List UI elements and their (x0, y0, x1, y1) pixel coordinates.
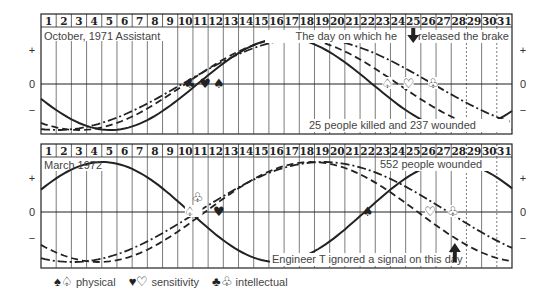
day-number: 25 (406, 145, 421, 157)
day-number: 17 (284, 145, 299, 157)
day-number: 29 (467, 145, 482, 157)
intellectual-critical-marker-icon: ♣ (184, 76, 196, 91)
y-tick-right: − (520, 232, 526, 244)
panel-2-title: March 1972 (44, 159, 102, 171)
day-number: 1 (45, 15, 52, 27)
panel-1-title: October, 1971 Assistant (44, 30, 160, 42)
day-number: 15 (254, 15, 269, 27)
day-number: 19 (315, 145, 330, 157)
day-number: 9 (166, 145, 173, 157)
day-number: 5 (106, 145, 113, 157)
intellectual-critical-marker-icon: ♧ (192, 190, 204, 205)
y-tick-left: 0 (29, 206, 35, 218)
day-number: 26 (421, 145, 436, 157)
day-number: 24 (391, 145, 406, 157)
sensitivity-critical-marker-icon: ♥ (199, 76, 211, 91)
day-number: 7 (136, 15, 143, 27)
day-number: 12 (208, 145, 223, 157)
legend-intellectual-label: intellectual (236, 276, 288, 288)
legend-physical-label: physical (76, 276, 116, 288)
day-number: 11 (193, 15, 208, 27)
day-number: 22 (360, 145, 375, 157)
day-number: 30 (482, 145, 497, 157)
biorhythm-chart: 1234567891011121314151617181920212223242… (0, 0, 553, 298)
physical-symbols-icon: ♠♤ (54, 275, 73, 288)
day-number: 6 (121, 145, 128, 157)
annotation-wounded-2: 552 people wounded (380, 158, 482, 170)
day-number: 24 (391, 15, 406, 27)
physical-critical-marker-icon: ♠ (362, 204, 374, 219)
day-number: 18 (300, 15, 315, 27)
day-number: 12 (208, 15, 223, 27)
legend-sensitivity-label: sensitivity (151, 276, 199, 288)
y-tick-right: + (520, 172, 526, 184)
annotation-brake-part2: released the brake (418, 30, 509, 42)
y-tick-left: − (29, 232, 35, 244)
day-number: 20 (330, 145, 345, 157)
day-number: 15 (254, 145, 269, 157)
intellectual-critical-marker-icon: ♧ (447, 204, 459, 219)
y-tick-right: − (520, 104, 526, 116)
day-number: 29 (467, 15, 482, 27)
sensitivity-symbols-icon: ♥♡ (129, 275, 149, 288)
day-number: 13 (224, 15, 239, 27)
day-number: 10 (178, 15, 193, 27)
day-number: 16 (269, 145, 284, 157)
day-number: 31 (497, 15, 512, 27)
annotation-signal: Engineer T ignored a signal on this day (272, 253, 463, 265)
sensitivity-critical-marker-icon: ♡ (424, 204, 436, 219)
y-tick-left: 0 (29, 78, 35, 90)
y-tick-right: 0 (520, 78, 526, 90)
sensitivity-critical-marker-icon: ♡ (403, 76, 415, 91)
day-number: 13 (224, 145, 239, 157)
day-number: 5 (106, 15, 113, 27)
day-number: 14 (239, 15, 254, 27)
day-number: 16 (269, 15, 284, 27)
day-number: 1 (45, 145, 52, 157)
day-number: 26 (421, 15, 436, 27)
day-number: 18 (300, 145, 315, 157)
day-number: 7 (136, 145, 143, 157)
intellectual-critical-marker-icon: ♧ (427, 76, 439, 91)
day-number: 11 (193, 145, 208, 157)
day-number: 21 (345, 145, 360, 157)
day-number: 9 (166, 15, 173, 27)
day-number: 2 (60, 15, 67, 27)
day-number: 3 (75, 15, 82, 27)
day-number: 28 (452, 15, 467, 27)
sensitivity-critical-marker-icon: ♥ (213, 204, 225, 219)
legend: ♠♤ physical ♥♡ sensitivity ♣♧ intellectu… (54, 275, 298, 288)
day-number: 6 (121, 15, 128, 27)
day-number: 4 (91, 145, 98, 157)
y-tick-right: 0 (520, 206, 526, 218)
day-number: 8 (151, 15, 158, 27)
day-number: 4 (91, 15, 98, 27)
day-number: 22 (360, 15, 375, 27)
intellectual-symbols-icon: ♣♧ (212, 275, 233, 288)
day-number: 2 (60, 145, 67, 157)
day-number: 23 (376, 15, 391, 27)
physical-critical-marker-icon: ♤ (382, 76, 394, 91)
y-tick-left: + (29, 44, 35, 56)
day-number: 23 (376, 145, 391, 157)
day-number: 19 (315, 15, 330, 27)
day-number: 20 (330, 15, 345, 27)
day-number: 3 (75, 145, 82, 157)
annotation-casualties-1: 25 people killed and 237 wounded (309, 119, 476, 131)
y-tick-right: + (520, 44, 526, 56)
annotation-brake-part1: The day on which he (295, 30, 397, 42)
day-number: 30 (482, 15, 497, 27)
day-number: 14 (239, 145, 254, 157)
day-number: 21 (345, 15, 360, 27)
day-number: 28 (452, 145, 467, 157)
y-tick-left: − (29, 104, 35, 116)
physical-critical-marker-icon: ♠ (213, 76, 225, 91)
day-number: 27 (436, 145, 451, 157)
day-number: 31 (497, 145, 512, 157)
day-number: 25 (406, 15, 421, 27)
day-number: 10 (178, 145, 193, 157)
day-number: 27 (436, 15, 451, 27)
y-tick-left: + (29, 172, 35, 184)
day-number: 8 (151, 145, 158, 157)
day-number: 17 (284, 15, 299, 27)
